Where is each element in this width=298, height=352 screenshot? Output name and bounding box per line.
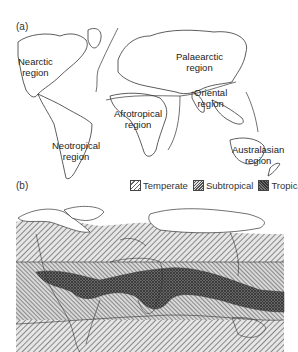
panel-b-climate-map — [0, 0, 298, 352]
